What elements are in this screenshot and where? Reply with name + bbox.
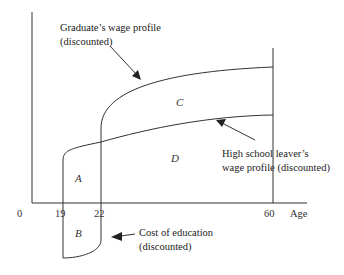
x-axis-label: Age	[290, 208, 308, 219]
graduate-label-line2: (discounted)	[60, 36, 113, 48]
tick-19: 19	[55, 208, 66, 219]
cost-arrow-head	[111, 232, 122, 241]
region-d-label: D	[170, 152, 179, 164]
cost-arrow-line	[121, 234, 135, 236]
hs-label-line1: High school leaver’s	[222, 148, 309, 159]
graduate-label-line1: Graduate’s wage profile	[60, 22, 161, 33]
cost-label-line1: Cost of education	[139, 227, 214, 238]
tick-60: 60	[264, 208, 275, 219]
region-c-label: C	[176, 96, 184, 108]
graduate-arrow-line	[110, 46, 137, 75]
wage-profile-diagram: A B C D 0 19 22 60 Age Graduate’s wage p…	[0, 0, 344, 275]
region-b-label: B	[75, 227, 82, 239]
hs-label-line2: wage profile (discounted)	[222, 162, 330, 174]
origin-label: 0	[17, 208, 22, 219]
high-school-wage-curve	[63, 115, 273, 203]
region-a-label: A	[74, 172, 82, 184]
hs-arrow-line	[222, 123, 255, 140]
cost-label-line2: (discounted)	[139, 241, 192, 253]
tick-22: 22	[94, 208, 105, 219]
hs-arrow-head	[216, 119, 226, 127]
